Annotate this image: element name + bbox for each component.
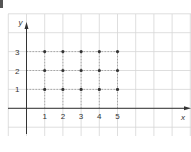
- dashed-guide-lines: [27, 52, 118, 109]
- data-point: [98, 88, 101, 91]
- y-tick-label: 1: [15, 85, 20, 94]
- x-tick-label: 5: [115, 112, 120, 121]
- data-point: [98, 69, 101, 72]
- data-point: [61, 88, 64, 91]
- y-axis-arrow-icon: [25, 22, 29, 29]
- x-axis-label: x: [180, 113, 186, 122]
- data-point: [61, 50, 64, 53]
- data-point: [116, 50, 119, 53]
- data-point: [116, 69, 119, 72]
- data-point: [80, 50, 83, 53]
- data-point: [43, 69, 46, 72]
- y-tick-label: 2: [15, 67, 20, 76]
- x-tick-label: 1: [42, 112, 47, 121]
- data-point: [43, 88, 46, 91]
- y-axis-label: y: [18, 18, 24, 27]
- data-point: [98, 50, 101, 53]
- x-tick-label: 2: [61, 112, 66, 121]
- data-point: [61, 69, 64, 72]
- data-point: [43, 50, 46, 53]
- data-point: [80, 69, 83, 72]
- scatter-chart: 12345123xy: [0, 0, 191, 152]
- x-tick-label: 4: [97, 112, 102, 121]
- data-point: [80, 88, 83, 91]
- data-point: [116, 88, 119, 91]
- y-tick-label: 3: [15, 48, 20, 57]
- x-tick-label: 3: [79, 112, 84, 121]
